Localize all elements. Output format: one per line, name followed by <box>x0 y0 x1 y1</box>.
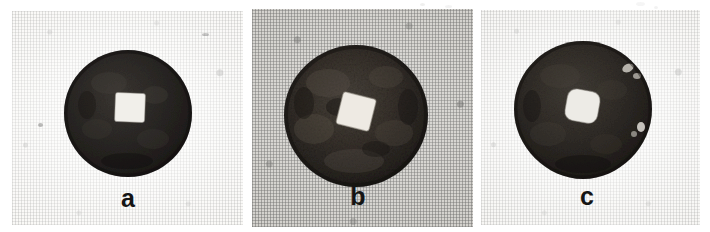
figure-plate: a <box>0 0 710 232</box>
coin-b <box>276 37 436 197</box>
page-speck <box>636 2 645 6</box>
panel-a-speck <box>38 123 43 127</box>
page-speck <box>654 6 658 9</box>
panel-label-c: c <box>567 184 607 209</box>
coin-a <box>57 43 199 185</box>
panel-a-speck <box>202 33 209 36</box>
coin-c <box>506 34 660 188</box>
page-speck <box>445 5 452 8</box>
panel-label-a: a <box>108 186 148 211</box>
panel-label-b: b <box>338 184 378 209</box>
page-speck <box>420 3 425 6</box>
